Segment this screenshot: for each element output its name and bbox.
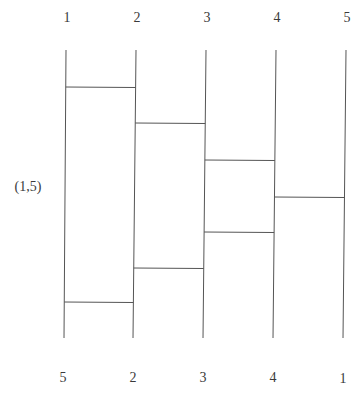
vertical-line-1: [64, 50, 66, 338]
rung-6: [134, 268, 204, 269]
rung-5: [204, 232, 274, 233]
vertical-line-2: [133, 50, 136, 338]
vertical-line-5: [343, 50, 346, 338]
rung-4: [274, 197, 344, 198]
rung-1: [66, 87, 136, 88]
ladder-diagram: [0, 0, 360, 397]
rung-7: [64, 302, 133, 303]
rung-3: [205, 160, 275, 161]
vertical-line-4: [273, 50, 276, 338]
vertical-line-3: [203, 50, 206, 338]
rung-2: [135, 123, 205, 124]
